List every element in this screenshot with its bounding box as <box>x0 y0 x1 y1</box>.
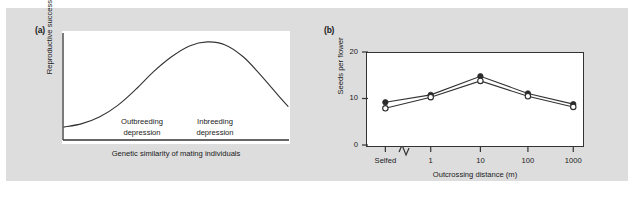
y-tick-label-0: 0 <box>336 140 358 149</box>
panel-a-curve-svg <box>62 31 290 144</box>
panel-b-plot-area <box>366 52 584 147</box>
panel-b-y-axis-ticks <box>360 47 368 152</box>
reproductive-success-curve <box>64 42 288 127</box>
panel-b-y-axis-label: Seeds per flower <box>334 19 348 114</box>
annotation-inbreeding-line1: Inbreeding <box>197 117 233 126</box>
data-point-open-circles-1000 <box>571 104 576 109</box>
x-tick-label-1000: 1000 <box>565 156 582 165</box>
panel-b-series-svg <box>367 53 583 146</box>
panel-a-plot-area: Outbreeding depression Inbreeding depres… <box>62 31 290 144</box>
panel-a-x-axis-label: Genetic similarity of mating individuals <box>62 149 290 158</box>
annotation-outbreeding-line1: Outbreeding <box>121 117 163 126</box>
data-point-open-circles-10 <box>478 78 483 83</box>
data-point-open-circles-100 <box>525 94 530 99</box>
data-point-open-circles-Selfed <box>383 106 388 111</box>
x-tick-label-Selfed: Selfed <box>375 156 397 165</box>
panel-a-y-axis-label: Reproductive success <box>43 0 57 94</box>
annotation-outbreeding-line2: depression <box>123 128 160 137</box>
series-line-open-circles <box>385 81 573 108</box>
axis-break-zigzag-icon <box>399 146 409 155</box>
panel-a: (a) Outbreeding depression Inbreeding de… <box>18 14 308 174</box>
x-tick-label-1: 1 <box>429 156 433 165</box>
data-point-open-circles-1 <box>428 94 433 99</box>
panel-b-x-axis-label: Outcrossing distance (m) <box>366 170 584 179</box>
annotation-inbreeding-line2: depression <box>196 128 233 137</box>
data-point-filled-circles-Selfed <box>383 100 388 105</box>
x-tick-label-10: 10 <box>476 156 484 165</box>
panel-b: (b) 01020 Selfed1101001000 Seeds per flo… <box>324 14 614 174</box>
annotation-inbreeding-depression: Inbreeding depression <box>188 117 242 138</box>
annotation-outbreeding-depression: Outbreeding depression <box>111 117 173 138</box>
x-tick-label-100: 100 <box>522 156 535 165</box>
